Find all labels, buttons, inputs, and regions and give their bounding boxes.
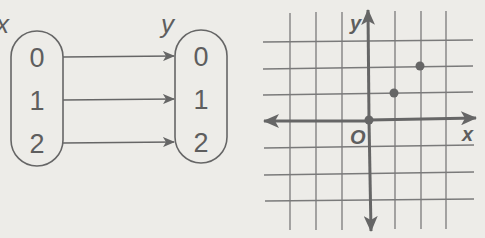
- x-axis-label: x: [461, 123, 474, 145]
- coordinate-graph: y x O: [0, 0, 485, 238]
- point-2-2: [416, 62, 425, 71]
- point-0-0: [365, 116, 374, 125]
- point-1-1: [390, 89, 399, 98]
- y-axis: [368, 10, 369, 120]
- origin-label: O: [350, 126, 366, 148]
- x-axis: [369, 118, 476, 120]
- y-axis-label: y: [349, 12, 362, 34]
- diagram-stage: x y 0 1 2 0 1 2: [0, 0, 485, 238]
- y-axis-negative: [369, 120, 371, 231]
